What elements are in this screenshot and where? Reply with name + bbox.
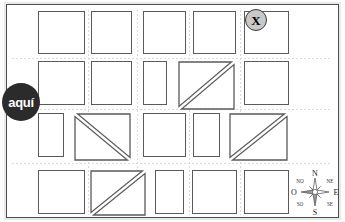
city-block-r1c2[interactable] — [91, 11, 132, 54]
you-are-here-marker[interactable]: aquí — [2, 83, 40, 121]
svg-text:NE: NE — [327, 178, 334, 184]
svg-text:SO: SO — [297, 201, 304, 207]
street-horizontal-0 — [12, 58, 332, 59]
city-block-r4c1[interactable] — [38, 170, 85, 214]
street-horizontal-2 — [12, 163, 332, 164]
city-block-r4c2[interactable] — [90, 170, 146, 216]
map-canvas: X aquí N S E O NO N — [0, 0, 345, 222]
svg-text:N: N — [312, 169, 318, 178]
compass-rose: N S E O NO NE SO SE — [289, 167, 341, 217]
city-block-r1c3[interactable] — [143, 11, 186, 54]
svg-text:S: S — [313, 208, 317, 217]
city-block-r4c5[interactable] — [244, 170, 289, 214]
svg-text:NO: NO — [296, 178, 304, 184]
svg-text:E: E — [334, 188, 339, 197]
city-block-r3c4[interactable] — [193, 113, 220, 157]
svg-text:SE: SE — [327, 201, 333, 207]
destination-marker-label: X — [251, 14, 260, 27]
city-block-r2c5[interactable] — [244, 61, 289, 105]
city-block-r1c4[interactable] — [193, 11, 236, 54]
street-vertical-2 — [189, 10, 190, 215]
city-block-r3c1[interactable] — [38, 113, 64, 157]
destination-marker[interactable]: X — [245, 9, 267, 31]
city-block-r2c4[interactable] — [178, 61, 235, 110]
you-are-here-label: aquí — [8, 96, 34, 109]
city-block-r4c4[interactable] — [192, 170, 237, 214]
city-block-r3c5[interactable] — [229, 113, 288, 161]
svg-text:O: O — [291, 188, 297, 197]
city-block-r2c1[interactable] — [38, 61, 85, 105]
city-block-r4c3[interactable] — [155, 170, 184, 214]
city-block-r2c2[interactable] — [91, 61, 132, 105]
city-block-r1c1[interactable] — [38, 11, 85, 54]
city-block-r3c2[interactable] — [74, 113, 131, 161]
city-block-r2c3[interactable] — [143, 61, 167, 105]
street-horizontal-1 — [12, 109, 332, 110]
city-block-r3c3[interactable] — [143, 113, 186, 157]
